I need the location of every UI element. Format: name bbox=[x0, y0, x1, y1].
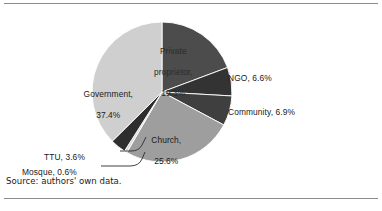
source-note: Source: authors' own data. bbox=[6, 176, 122, 186]
slice-label-private-proprietor: Private proprietor, 19.3% bbox=[138, 35, 194, 109]
figure-container: Private proprietor, 19.3% Government, 37… bbox=[0, 0, 382, 211]
slice-label-community: Community, 6.9% bbox=[228, 107, 295, 118]
slice-label-private-proprietor-line3: 19.3% bbox=[161, 88, 185, 98]
slice-label-government: Government, 37.4% bbox=[68, 78, 134, 131]
top-divider-rule bbox=[4, 3, 378, 4]
slice-label-ngo: NGO, 6.6% bbox=[228, 73, 272, 84]
slice-label-ttu: TTU, 3.6% bbox=[44, 152, 85, 163]
bottom-divider-rule bbox=[4, 198, 378, 199]
slice-label-church-line2: 25.6% bbox=[154, 156, 178, 166]
slice-label-government-line1: Government, bbox=[84, 89, 134, 99]
slice-label-government-line2: 37.4% bbox=[96, 110, 120, 120]
slice-label-private-proprietor-line2: proprietor, bbox=[154, 67, 193, 77]
slice-label-church: Church, 25.6% bbox=[135, 124, 183, 177]
slice-label-church-line1: Church, bbox=[151, 135, 181, 145]
pie-chart: Private proprietor, 19.3% Government, 37… bbox=[0, 6, 382, 171]
slice-label-private-proprietor-line1: Private bbox=[160, 46, 187, 56]
